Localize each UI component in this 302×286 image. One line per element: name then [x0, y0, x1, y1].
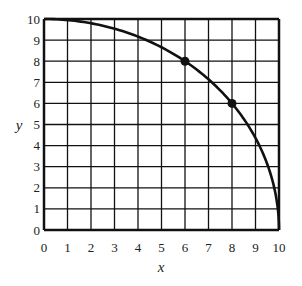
y-tick-label: 0 — [34, 223, 41, 238]
y-tick-label: 1 — [34, 201, 41, 216]
x-tick-label: 5 — [158, 240, 165, 255]
y-tick-label: 5 — [34, 117, 41, 132]
y-tick-label: 8 — [34, 54, 41, 69]
y-tick-label: 6 — [34, 96, 41, 111]
data-point — [228, 99, 237, 108]
x-axis-label: x — [157, 259, 165, 275]
grid — [44, 19, 279, 230]
x-tick-label: 1 — [64, 240, 71, 255]
x-tick-label: 4 — [135, 240, 142, 255]
data-point — [181, 57, 190, 66]
y-tick-label: 3 — [34, 159, 41, 174]
x-tick-label: 0 — [41, 240, 48, 255]
x-tick-label: 2 — [88, 240, 95, 255]
y-tick-labels: 012345678910 — [27, 12, 41, 238]
x-tick-label: 7 — [205, 240, 212, 255]
chart: 012345678910 012345678910 x y — [0, 0, 302, 286]
x-tick-label: 3 — [111, 240, 118, 255]
x-tick-labels: 012345678910 — [41, 240, 286, 255]
y-tick-label: 9 — [34, 33, 41, 48]
y-tick-label: 2 — [34, 180, 41, 195]
y-tick-label: 10 — [27, 12, 40, 27]
x-tick-label: 9 — [252, 240, 259, 255]
y-tick-label: 4 — [34, 138, 41, 153]
y-tick-label: 7 — [34, 75, 41, 90]
y-axis-label: y — [14, 117, 23, 133]
x-tick-label: 10 — [273, 240, 286, 255]
x-tick-label: 6 — [182, 240, 189, 255]
x-tick-label: 8 — [229, 240, 236, 255]
